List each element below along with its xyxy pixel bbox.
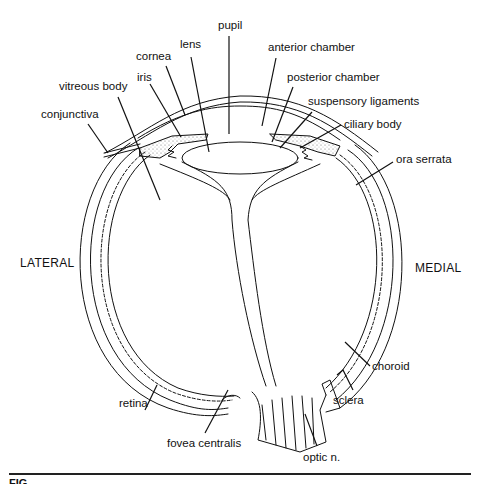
label-medial: MEDIAL [415,262,461,275]
leader-ora-serrata [356,162,393,185]
label-pupil: pupil [218,19,242,32]
optic-nerve [252,380,340,452]
leader-optic-n [305,414,317,446]
label-conjunctiva: conjunctiva [41,108,99,121]
sclera-layer [80,143,402,416]
label-suspensory-ligaments: suspensory ligaments [308,95,419,108]
label-ciliary-body: ciliary body [344,118,402,131]
iris-ciliary [140,134,340,160]
label-cornea: cornea [136,50,171,63]
label-fovea-centralis: fovea centralis [167,437,241,450]
label-anterior-chamber: anterior chamber [268,41,355,54]
leader-posterior-chamber [272,87,293,142]
vitreous-boundary [160,162,320,386]
leader-sclera [337,370,353,390]
eye-cross-section-diagram: pupil lens cornea iris vitreous body con… [0,0,482,484]
label-lens: lens [180,38,201,51]
figure-caption: FIG. [9,478,30,484]
label-ora-serrata: ora serrata [396,153,452,166]
label-choroid: choroid [372,360,410,373]
label-iris: iris [137,71,152,84]
caption-divider [9,473,471,475]
label-optic-n: optic n. [303,451,340,464]
label-posterior-chamber: posterior chamber [287,71,380,84]
leader-cornea [166,66,185,115]
leader-anterior-chamber [262,58,276,126]
label-vitreous-body: vitreous body [59,80,127,93]
leader-conjunctiva [88,124,108,153]
label-retina: retina [119,397,148,410]
choroid-retina-layer [101,152,382,401]
label-lateral: LATERAL [20,257,75,270]
conjunctiva-line [104,144,140,153]
eye-diagram-drawing [0,0,482,484]
label-sclera: sclera [333,394,364,407]
